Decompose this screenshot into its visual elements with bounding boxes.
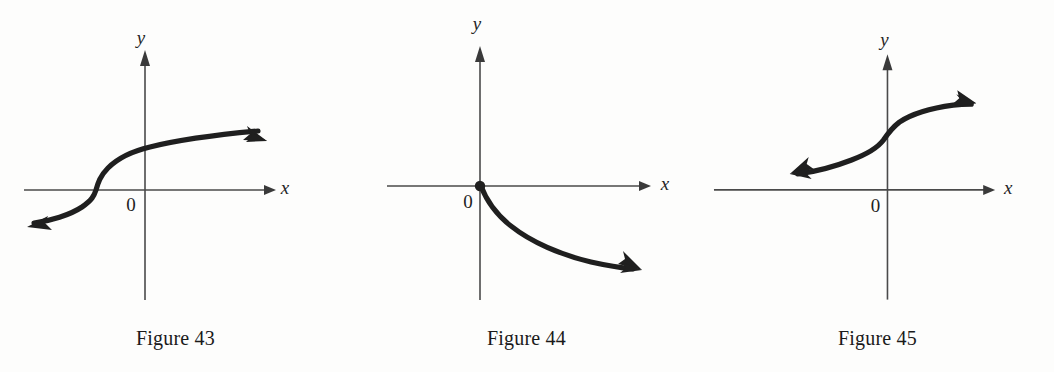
- curve-figure-43: [27, 126, 267, 230]
- y-axis-label: y: [471, 13, 482, 34]
- x-axis-label: x: [280, 177, 290, 198]
- y-axis: [140, 50, 150, 300]
- x-axis: [24, 185, 276, 195]
- figure-panel-43: y x 0 Figure 43: [0, 0, 351, 372]
- figure-45-caption: Figure 45: [702, 325, 1053, 351]
- figure-43-caption: Figure 43: [0, 325, 351, 351]
- x-axis: [387, 181, 651, 191]
- figure-45-plot: y x 0: [702, 0, 1053, 320]
- x-axis-label: x: [1003, 177, 1013, 198]
- figure-sheet: y x 0 Figure 43: [0, 0, 1054, 372]
- figure-44-plot: y x 0: [351, 0, 702, 320]
- origin-label: 0: [871, 195, 880, 216]
- figure-43-plot: y x 0: [0, 0, 351, 320]
- origin-label: 0: [463, 191, 473, 212]
- x-axis-label: x: [660, 173, 670, 194]
- endpoint-dot: [475, 181, 485, 191]
- y-axis: [882, 54, 892, 299]
- curve-figure-45: [790, 90, 976, 179]
- origin-label: 0: [126, 194, 136, 215]
- figure-44-caption: Figure 44: [351, 325, 702, 351]
- y-axis-label: y: [135, 27, 146, 48]
- y-axis: [475, 46, 485, 300]
- figure-panel-45: y x 0 Figure 45: [702, 0, 1053, 372]
- x-axis: [714, 185, 995, 195]
- figure-panel-44: y x 0 Figure 44: [351, 0, 702, 372]
- y-axis-label: y: [878, 29, 889, 50]
- curve-figure-44: [475, 181, 642, 273]
